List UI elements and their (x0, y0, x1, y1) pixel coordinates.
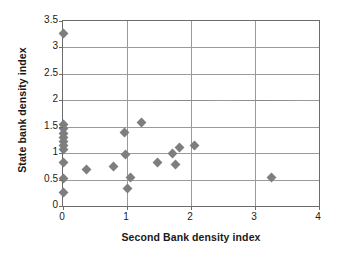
data-point-marker (58, 174, 68, 184)
x-tick-label: 4 (298, 212, 337, 222)
x-tick-mark (127, 206, 128, 210)
x-tick-mark (63, 206, 64, 210)
data-point-marker (58, 28, 68, 38)
y-axis-tick-labels: 00.511.522.533.5 (10, 20, 58, 207)
scatter-chart-figure: State bank density index 00.511.522.533.… (0, 0, 337, 254)
y-tick-label: 3.5 (14, 15, 58, 25)
x-tick-label: 3 (234, 212, 274, 222)
gridline-vertical (255, 21, 256, 206)
x-tick-mark (319, 206, 320, 210)
data-point-marker (58, 188, 68, 198)
data-point-marker (122, 184, 132, 194)
plot-area (62, 20, 320, 207)
x-tick-mark (191, 206, 192, 210)
y-tick-mark (59, 47, 63, 48)
y-tick-label: 1.5 (14, 121, 58, 131)
x-tick-label: 1 (106, 212, 146, 222)
x-axis-title: Second Bank density index (62, 231, 320, 243)
data-point-marker (120, 149, 130, 159)
data-point-marker (175, 142, 185, 152)
y-tick-mark (59, 74, 63, 75)
scan-artifact (151, 100, 221, 101)
y-tick-label: 0 (14, 200, 58, 210)
x-tick-label: 2 (170, 212, 210, 222)
y-tick-mark (59, 153, 63, 154)
data-point-marker (137, 118, 147, 128)
data-point-marker (58, 157, 68, 167)
x-tick-label: 0 (42, 212, 82, 222)
data-point-marker (153, 158, 163, 168)
y-tick-label: 2.5 (14, 68, 58, 78)
y-tick-mark (59, 21, 63, 22)
scan-artifact (231, 100, 301, 101)
data-point-marker (171, 159, 181, 169)
gridline-vertical (191, 21, 192, 206)
x-axis-tick-labels: 01234 (62, 212, 320, 226)
data-point-marker (81, 165, 91, 175)
y-tick-mark (59, 127, 63, 128)
y-tick-mark (59, 100, 63, 101)
y-tick-label: 2 (14, 94, 58, 104)
y-tick-label: 3 (14, 41, 58, 51)
y-tick-label: 0.5 (14, 174, 58, 184)
y-tick-label: 1 (14, 147, 58, 157)
y-tick-mark (59, 180, 63, 181)
x-tick-mark (255, 206, 256, 210)
data-point-marker (109, 161, 119, 171)
